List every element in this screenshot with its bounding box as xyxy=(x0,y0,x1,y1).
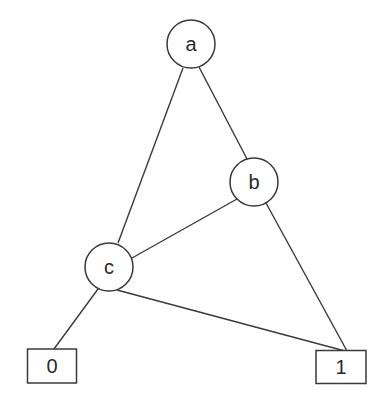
edge-c-to-t0 xyxy=(54,289,98,349)
terminal-node-0: 0 xyxy=(28,349,77,383)
edge-c-to-t1 xyxy=(117,290,345,351)
nodes-layer: abc01 xyxy=(28,20,367,384)
node-label: 0 xyxy=(46,355,57,377)
decision-node-c: c xyxy=(85,243,133,291)
decision-node-a: a xyxy=(167,20,215,68)
node-label: 1 xyxy=(335,356,346,378)
edge-b-to-c xyxy=(132,199,237,258)
bdd-diagram: abc01 xyxy=(0,0,389,406)
terminal-node-1: 1 xyxy=(316,351,366,384)
edges-layer xyxy=(54,67,347,351)
node-label: b xyxy=(248,171,259,193)
edge-a-to-c xyxy=(118,68,183,243)
edge-b-to-t1 xyxy=(266,203,347,351)
decision-node-b: b xyxy=(230,158,278,206)
node-label: a xyxy=(185,33,197,55)
edge-a-to-b xyxy=(199,67,247,159)
node-label: c xyxy=(104,256,114,278)
